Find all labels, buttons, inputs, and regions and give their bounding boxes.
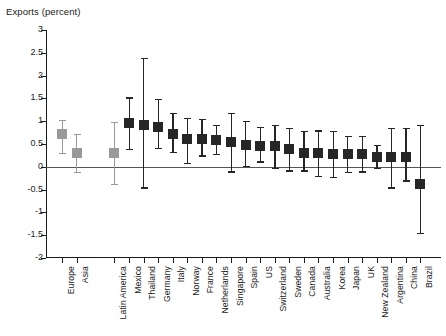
y-tick-label: 2.5: [30, 47, 43, 57]
error-bar-cap-lower: [199, 155, 206, 156]
estimate-marker[interactable]: [386, 152, 396, 162]
error-bar-cap-lower: [59, 153, 66, 154]
error-bar-cap-upper: [272, 125, 279, 126]
estimate-marker[interactable]: [270, 141, 280, 151]
x-axis-label: Latin America: [118, 266, 128, 319]
error-bar-cap-upper: [257, 127, 264, 128]
y-tick-label: -1: [35, 206, 43, 216]
error-bar-cap-lower: [111, 184, 118, 185]
y-axis-line: [46, 30, 47, 258]
x-tick-mark: [289, 258, 290, 263]
x-tick-mark: [348, 258, 349, 263]
error-bar-cap-upper: [330, 131, 337, 132]
x-axis-label: Argentina: [395, 266, 405, 304]
x-tick-mark: [187, 258, 188, 263]
error-bar-cap-lower: [403, 180, 410, 181]
x-axis-label: Korea: [337, 266, 347, 289]
y-tick-label: -0.5: [27, 184, 43, 194]
x-axis-label: Thailand: [147, 266, 157, 300]
x-axis-label: Europe: [66, 266, 76, 294]
estimate-marker[interactable]: [415, 179, 425, 189]
x-axis-label: Singapore: [235, 266, 245, 306]
error-bar-cap-upper: [141, 58, 148, 59]
estimate-marker[interactable]: [299, 148, 309, 158]
exports-percent-chart: Exports (percent) 32.521.510.50-0.5-1-1.…: [0, 0, 446, 336]
estimate-marker[interactable]: [124, 118, 134, 128]
estimate-marker[interactable]: [284, 144, 294, 154]
estimate-marker[interactable]: [72, 148, 82, 158]
x-axis-label: China: [409, 266, 419, 289]
estimate-marker[interactable]: [313, 148, 323, 158]
error-bar-cap-lower: [126, 149, 133, 150]
error-bar-cap-lower: [359, 171, 366, 172]
error-bar-cap-upper: [301, 131, 308, 132]
error-bar-cap-upper: [286, 128, 293, 129]
estimate-marker[interactable]: [197, 134, 207, 144]
x-axis-label: Mexico: [133, 266, 143, 294]
y-tick-label: -1.5: [27, 229, 43, 239]
x-axis-label: Netherlands: [220, 266, 230, 313]
error-bar-cap-upper: [359, 136, 366, 137]
error-bar-cap-lower: [74, 172, 81, 173]
error-bar-cap-upper: [170, 113, 177, 114]
error-bar-cap-lower: [374, 168, 381, 169]
error-bar-cap-upper: [345, 136, 352, 137]
x-axis-label: Spain: [249, 266, 259, 288]
plot-area: 32.521.510.50-0.5-1-1.5-2: [46, 30, 441, 258]
estimate-marker[interactable]: [226, 137, 236, 147]
x-axis-label: Switzerland: [278, 266, 288, 312]
y-tick-label: 2: [38, 70, 43, 80]
error-bar-cap-upper: [228, 113, 235, 114]
x-tick-mark: [377, 258, 378, 263]
estimate-marker[interactable]: [372, 152, 382, 162]
error-bar-cap-lower: [286, 170, 293, 171]
x-tick-mark: [114, 258, 115, 263]
error-bar-cap-upper: [243, 121, 250, 122]
error-bar-cap-upper: [111, 122, 118, 123]
y-tick-label: 0: [38, 161, 43, 171]
y-tick-label: 3: [38, 24, 43, 34]
x-tick-mark: [158, 258, 159, 263]
estimate-marker[interactable]: [401, 152, 411, 162]
x-tick-mark: [246, 258, 247, 263]
estimate-marker[interactable]: [255, 141, 265, 151]
error-bar-cap-upper: [374, 145, 381, 146]
x-axis-label: Japan: [351, 266, 361, 290]
error-bar-cap-lower: [228, 171, 235, 172]
x-axis-label: Brazil: [424, 266, 434, 288]
x-tick-mark: [304, 258, 305, 263]
x-tick-mark: [129, 258, 130, 263]
x-tick-mark: [333, 258, 334, 263]
error-bar-cap-lower: [345, 172, 352, 173]
x-tick-mark: [318, 258, 319, 263]
estimate-marker[interactable]: [328, 149, 338, 159]
x-tick-mark: [62, 258, 63, 263]
estimate-marker[interactable]: [168, 129, 178, 139]
estimate-marker[interactable]: [182, 134, 192, 144]
error-bar-cap-lower: [141, 187, 148, 188]
x-tick-mark: [362, 258, 363, 263]
x-axis-label: Canada: [307, 266, 317, 297]
error-bar-cap-lower: [243, 166, 250, 167]
x-axis-label: UK: [366, 266, 376, 278]
x-axis-line: [46, 257, 441, 258]
x-tick-mark: [406, 258, 407, 263]
estimate-marker[interactable]: [109, 148, 119, 158]
estimate-marker[interactable]: [343, 149, 353, 159]
estimate-marker[interactable]: [153, 122, 163, 132]
error-bar-cap-upper: [126, 97, 133, 98]
y-tick-label: 1: [38, 115, 43, 125]
estimate-marker[interactable]: [211, 135, 221, 145]
estimate-marker[interactable]: [357, 149, 367, 159]
estimate-marker[interactable]: [241, 140, 251, 150]
x-axis-label: Norway: [191, 266, 201, 296]
error-bar-cap-lower: [155, 148, 162, 149]
x-axis-label: Asia: [80, 266, 90, 283]
estimate-marker[interactable]: [57, 129, 67, 139]
x-tick-mark: [260, 258, 261, 263]
x-axis-label: Germany: [162, 266, 172, 302]
x-axis-label: Australia: [322, 266, 332, 300]
x-axis-label: Italy: [176, 266, 186, 282]
x-tick-mark: [391, 258, 392, 263]
estimate-marker[interactable]: [139, 120, 149, 130]
